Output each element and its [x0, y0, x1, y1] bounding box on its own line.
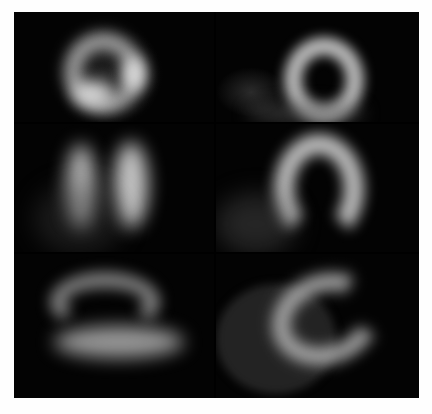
panel-r3-c1	[14, 254, 214, 398]
panel-r1-c1	[14, 12, 214, 122]
upper-arc	[50, 272, 160, 332]
haze	[216, 194, 296, 252]
ring-shadow	[246, 102, 366, 122]
ring-bright-lower	[74, 80, 114, 106]
lower-band	[54, 326, 184, 358]
image-grid	[14, 12, 419, 398]
panel-r1-c2	[216, 12, 419, 122]
ring-bright-right	[122, 57, 146, 91]
panel-r3-c2	[216, 254, 419, 398]
haze	[34, 184, 124, 252]
panel-r2-c1	[14, 124, 214, 252]
panel-r2-c2	[216, 124, 419, 252]
